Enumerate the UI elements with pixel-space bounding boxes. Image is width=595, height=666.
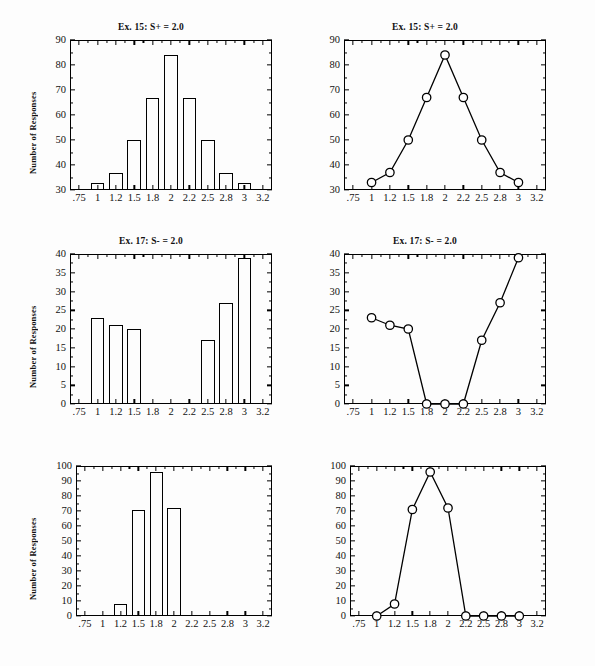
panel-title: Ex. 15: S+ = 2.0 [26,22,276,32]
x-tick-label: 3.2 [530,193,543,204]
y-tick [76,495,81,496]
y-tick-minor [76,473,79,474]
x-tick [152,40,153,45]
x-tick [245,611,246,616]
x-tick-minor [143,254,144,257]
bar [167,508,180,616]
y-tick-minor [269,357,272,358]
bar [164,55,178,190]
x-tick [84,466,85,471]
y-tick [267,164,272,165]
bar [201,140,215,190]
x-tick [79,185,80,190]
y-tick-minor [76,593,79,594]
y-tick-minor [76,488,79,489]
y-tick-minor [269,473,272,474]
x-tick [262,466,263,471]
y-tick-minor [70,394,73,395]
x-tick [209,466,210,471]
x-tick-minor [106,40,107,43]
y-tick-label: 60 [336,521,347,532]
x-tick-label: 2 [171,619,176,630]
y-tick [267,189,272,190]
data-point [404,325,412,333]
y-tick-label: 0 [335,399,340,410]
data-point [515,612,523,620]
data-series [350,466,546,616]
x-tick-label: .75 [352,619,365,630]
x-tick-label: 3.2 [530,407,543,418]
y-tick [267,253,272,254]
y-tick-minor [76,608,79,609]
panel-row2-right: Ex. 17: S- = 2.0 0510152025303540.7511.2… [300,236,550,426]
data-point [444,504,452,512]
x-tick-minor [111,466,112,469]
y-tick-label: 40 [330,249,341,260]
y-tick [70,291,75,292]
x-tick-minor [253,254,254,257]
x-tick-label: 1.5 [128,193,141,204]
x-tick [120,466,121,471]
y-tick-minor [269,319,272,320]
x-tick-label: 1.8 [146,407,159,418]
x-tick-label: .75 [78,619,91,630]
x-tick [152,254,153,259]
x-tick-minor [254,466,255,469]
y-tick [70,39,75,40]
x-tick-label: 1 [95,407,100,418]
y-tick-minor [70,152,73,153]
bar [91,183,105,191]
x-tick-label: 1.8 [420,193,433,204]
y-tick-minor [70,52,73,53]
y-tick-label: 80 [336,491,347,502]
y-tick-minor [70,77,73,78]
panel-title: Ex. 17: S- = 2.0 [26,236,276,246]
x-tick-label: 3 [243,619,248,630]
x-tick [102,611,103,616]
x-tick-label: 1.8 [146,193,159,204]
x-tick [225,40,226,45]
x-tick-minor [216,254,217,257]
y-tick [267,525,272,526]
y-tick-minor [70,319,73,320]
x-tick-label: .75 [73,407,86,418]
x-tick-label: 2 [445,619,450,630]
y-tick-label: 30 [62,566,73,577]
x-tick-minor [93,466,94,469]
y-tick-label: 20 [330,324,341,335]
y-tick-minor [269,52,272,53]
x-tick [152,399,153,404]
y-tick-label: 35 [56,268,67,279]
y-tick-label: 25 [330,305,341,316]
x-tick-label: 3.2 [257,619,270,630]
y-tick [76,465,81,466]
x-tick-minor [180,254,181,257]
y-tick [70,310,75,311]
y-tick-minor [269,503,272,504]
clipped-header-text [85,0,515,6]
y-tick [76,480,81,481]
bar [201,340,215,404]
x-tick [262,611,263,616]
x-tick-minor [236,466,237,469]
y-tick-label: 10 [336,596,347,607]
data-point [426,468,434,476]
y-tick-label: 90 [56,35,67,46]
y-tick-minor [70,375,73,376]
y-tick-label: 30 [336,566,347,577]
data-point [459,93,467,101]
data-point [478,136,486,144]
data-point [496,168,504,176]
x-tick-minor [125,40,126,43]
y-tick [70,139,75,140]
x-tick-label: 1.2 [114,619,127,630]
x-tick-minor [88,254,89,257]
data-point [478,336,486,344]
x-tick-minor [88,40,89,43]
x-tick-label: 1 [369,407,374,418]
x-tick-label: 2 [168,407,173,418]
data-point [441,400,449,408]
x-tick [79,254,80,259]
x-tick-label: 3 [242,407,247,418]
data-point [462,612,470,620]
